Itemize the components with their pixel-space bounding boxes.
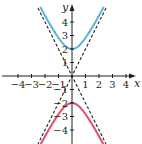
- axes: [2, 4, 136, 144]
- y-tick-label: 4: [62, 17, 68, 28]
- hyperbola-chart: xy−4−3−2−112344321−1−2−3−4: [0, 0, 142, 144]
- x-tick-label: 2: [96, 79, 102, 90]
- y-axis-label: y: [61, 1, 69, 14]
- y-tick-label: 3: [62, 30, 68, 41]
- y-tick-label: −2: [53, 98, 68, 109]
- x-tick-label: 4: [123, 79, 129, 90]
- plot-area: xy−4−3−2−112344321−1−2−3−4: [0, 0, 142, 144]
- y-tick-label: −4: [53, 125, 68, 136]
- x-tick-label: 3: [109, 79, 115, 90]
- y-tick-label: 1: [62, 57, 68, 68]
- x-tick-label: 1: [82, 79, 88, 90]
- y-tick-label: −3: [53, 111, 68, 122]
- y-tick-label: 2: [62, 44, 68, 55]
- y-axis-arrow-icon: [70, 4, 75, 11]
- y-tick-label: −1: [53, 84, 68, 95]
- x-axis-label: x: [134, 77, 141, 90]
